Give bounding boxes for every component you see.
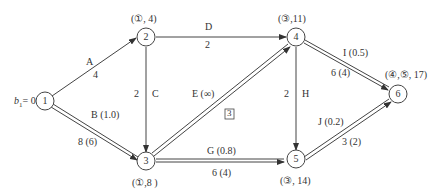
edge-J-name: J (0.2) [318,117,344,127]
node-3-annotation: (①,8 ) [132,178,158,188]
edge-C-name: C [152,89,159,99]
edge-E-name: E (∞) [192,89,214,99]
node-1-label: 1 [35,91,55,111]
edge-D-value: 2 [205,40,210,50]
node-6-label: 6 [388,84,408,104]
edge-I-value: 6 (4) [331,68,350,78]
edge-C-value: 2 [134,89,139,99]
edge-A-value: 4 [93,70,98,80]
node-4-label: 4 [286,27,306,47]
node-1-annotation: b1= 0 [14,96,36,109]
edge-E [152,44,290,156]
b1-value: = 0 [23,95,36,106]
node-3-label: 3 [136,151,156,171]
edge-A [52,38,136,96]
node-4-annotation: (③,11) [278,14,306,24]
edge-D-name: D [205,22,212,32]
edge-E-value: 3 [227,109,232,118]
edge-G-name: G (0.8) [207,146,236,156]
edge-B-value: 8 (6) [78,137,97,147]
node-5-annotation: (③, 14) [280,176,311,186]
edge-A-name: A [86,57,93,67]
edge-I-name: I (0.5) [343,48,368,58]
edge-B-name: B (1.0) [91,110,119,120]
edge-H-value: 2 [284,89,289,99]
edge-G-value: 6 (4) [212,168,231,178]
node-2-annotation: (①, 4) [131,14,157,24]
node-2-label: 2 [136,27,156,47]
node-6-annotation: (④,⑤, 17) [385,70,427,80]
edge-J-value: 3 (2) [342,137,361,147]
node-5-label: 5 [286,149,306,169]
edge-H-name: H [302,89,309,99]
edge-J [304,99,391,160]
edge-G [156,159,284,162]
